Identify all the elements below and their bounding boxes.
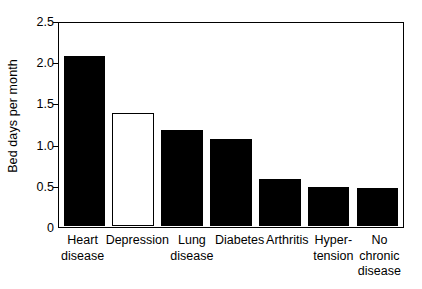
x-axis-tick-label: Diabetes — [215, 233, 264, 280]
bar-slot — [60, 24, 109, 227]
y-axis-title-text: Bed days per month — [6, 59, 20, 173]
bar-slot — [158, 24, 207, 227]
bar-slot — [353, 24, 402, 227]
x-axis-tick-label: Hyper- tension — [310, 233, 356, 280]
bar — [259, 179, 300, 226]
bar — [308, 187, 349, 226]
y-axis-tick-label: 1.0 — [37, 139, 54, 153]
bar — [357, 188, 398, 226]
x-axis-tick-label: Lung disease — [169, 233, 215, 280]
y-axis-tick-label: 2.5 — [37, 15, 54, 29]
x-axis-tick-label: No chronic disease — [356, 233, 402, 280]
bar-chart-figure: Bed days per month 2.52.01.51.00.50 Hear… — [0, 0, 422, 289]
x-axis-tick-labels: Heart diseaseDepressionLung diseaseDiabe… — [60, 233, 403, 280]
bar-slot — [255, 24, 304, 227]
bar — [161, 130, 202, 227]
bar — [112, 113, 153, 227]
bar — [210, 139, 251, 227]
x-axis-tick-label: Heart disease — [60, 233, 106, 280]
y-axis-tick-label: 2.0 — [37, 56, 54, 70]
x-axis-tick-label: Arthritis — [264, 233, 310, 280]
y-axis-tick-label: 0.5 — [37, 180, 54, 194]
x-axis-tick-label: Depression — [106, 233, 169, 280]
bars-container — [60, 24, 403, 227]
y-axis-tick-label: 1.5 — [37, 97, 54, 111]
bar-slot — [304, 24, 353, 227]
bar-slot — [109, 24, 158, 227]
y-axis-tick-label: 0 — [47, 221, 54, 235]
bar — [64, 56, 105, 226]
bar-slot — [207, 24, 256, 227]
y-axis-tick-labels: 2.52.01.51.00.50 — [22, 22, 54, 228]
